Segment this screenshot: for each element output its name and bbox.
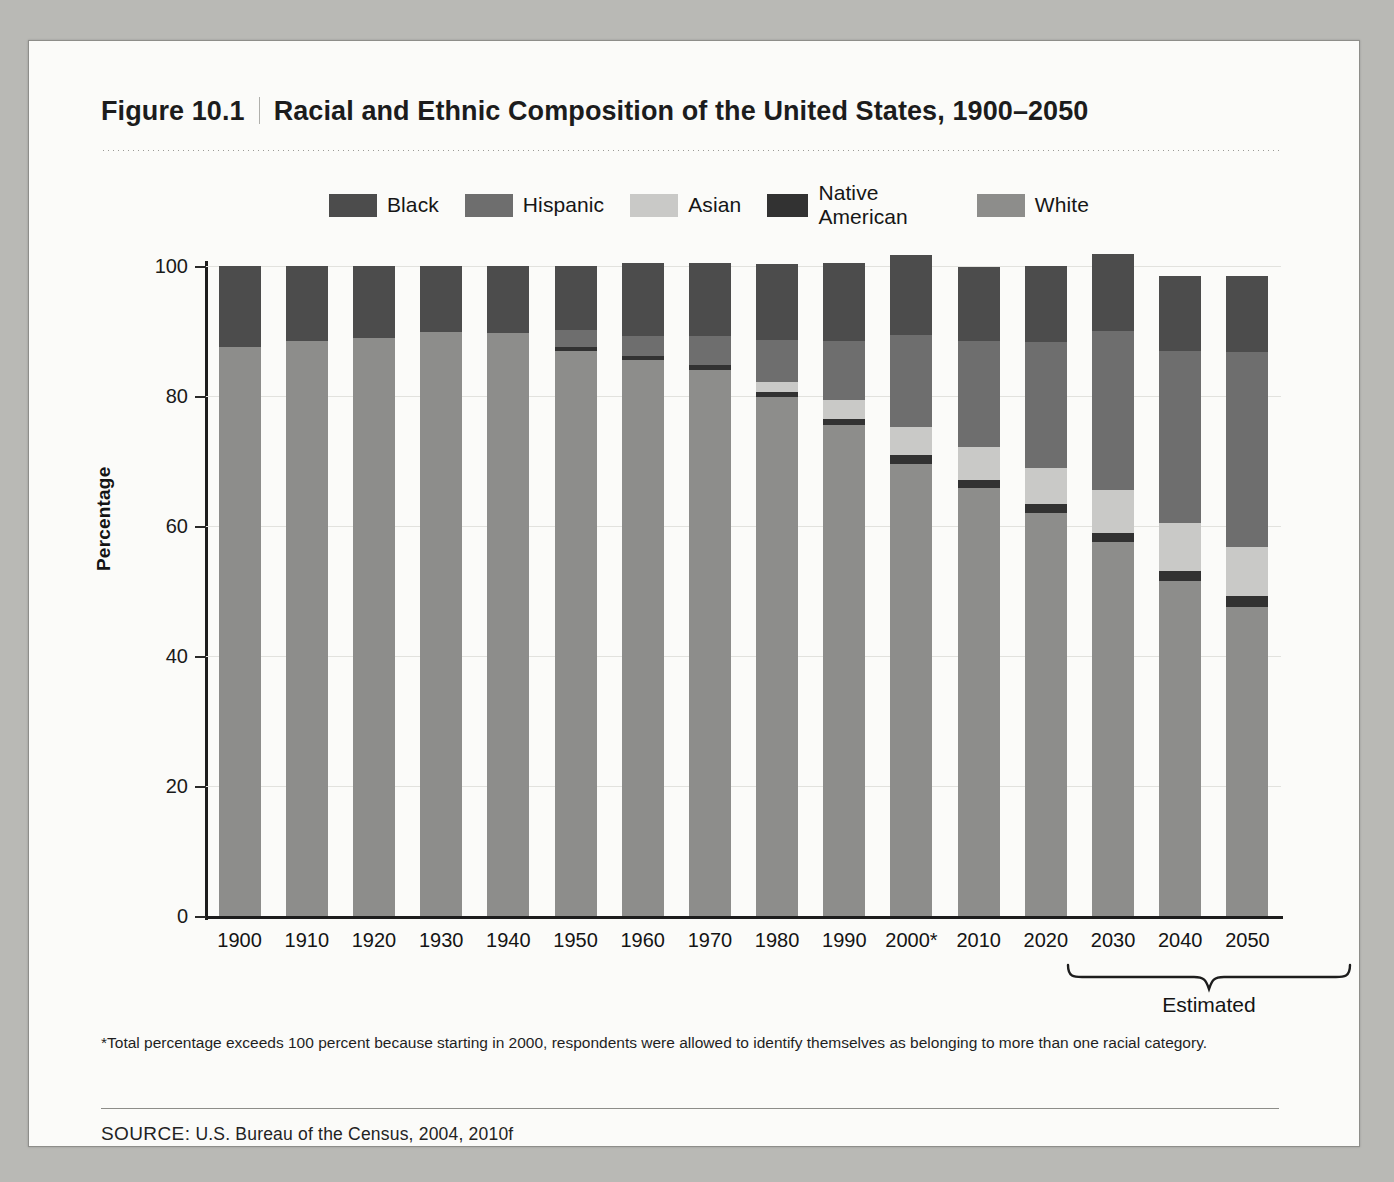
bar-segment-hispanic: [756, 340, 798, 382]
y-axis-tick-label: 0: [177, 905, 188, 928]
y-axis-tick: [195, 916, 206, 918]
bar-segment-black: [890, 255, 932, 335]
figure-page: Figure 10.1 Racial and Ethnic Compositio…: [0, 0, 1394, 1182]
bar-1910: [286, 266, 328, 916]
bar-segment-hispanic: [1025, 342, 1067, 468]
bar-segment-native-american: [890, 455, 932, 465]
bar-segment-hispanic: [555, 330, 597, 346]
legend-item-label: Hispanic: [523, 193, 604, 217]
bar-segment-black: [622, 263, 664, 336]
bar-1950: [555, 266, 597, 916]
bar-segment-native-american: [756, 392, 798, 397]
bar-2040: [1159, 266, 1201, 916]
legend-swatch-icon: [767, 194, 808, 217]
plot-region: 020406080100: [206, 266, 1281, 916]
bar-segment-hispanic: [1159, 351, 1201, 523]
bar-segment-native-american: [689, 365, 731, 370]
bar-segment-native-american: [823, 419, 865, 425]
bar-segment-black: [1025, 266, 1067, 342]
y-axis-tick-label: 100: [155, 255, 188, 278]
bar-segment-native-american: [555, 347, 597, 351]
bar-segment-black: [756, 264, 798, 340]
y-axis-tick-label: 40: [166, 645, 188, 668]
y-axis-tick: [195, 526, 206, 528]
bar-segment-hispanic: [823, 341, 865, 400]
bar-segment-black: [1159, 276, 1201, 351]
y-axis-label: Percentage: [93, 467, 115, 571]
bar-segment-asian: [756, 382, 798, 392]
bar-segment-white: [1025, 513, 1067, 916]
bar-segment-asian: [823, 400, 865, 420]
bar-segment-hispanic: [1226, 352, 1268, 547]
bar-1940: [487, 266, 529, 916]
bar-segment-native-american: [1226, 596, 1268, 608]
bar-segment-white: [353, 338, 395, 917]
y-axis-tick: [195, 396, 206, 398]
bar-2030: [1092, 266, 1134, 916]
bar-segment-white: [555, 351, 597, 917]
bar-segment-asian: [1159, 523, 1201, 570]
bar-segment-white: [958, 488, 1000, 916]
figure-source: SOURCE: U.S. Bureau of the Census, 2004,…: [101, 1123, 1271, 1145]
bar-segment-hispanic: [1092, 331, 1134, 490]
legend-item-black: Black: [329, 193, 439, 217]
bar-segment-black: [823, 263, 865, 342]
y-axis-tick-label: 20: [166, 775, 188, 798]
bar-segment-black: [555, 266, 597, 330]
bar-segment-native-american: [1159, 571, 1201, 581]
legend-item-white: White: [977, 193, 1089, 217]
bar-segment-black: [219, 266, 261, 347]
bar-1920: [353, 266, 395, 916]
bar-series-group: [206, 266, 1281, 916]
bar-segment-native-american: [1092, 533, 1134, 543]
y-axis-tick: [195, 266, 206, 268]
bar-segment-white: [420, 332, 462, 916]
bar-1960: [622, 266, 664, 916]
x-axis-line: [205, 916, 1283, 919]
header-divider: [259, 97, 260, 124]
bar-segment-native-american: [1025, 504, 1067, 513]
bar-segment-white: [622, 360, 664, 916]
bar-segment-asian: [1025, 468, 1067, 504]
legend-swatch-icon: [465, 194, 513, 217]
y-axis-tick-label: 60: [166, 515, 188, 538]
header-dotted-rule: [101, 149, 1279, 152]
bar-segment-white: [1226, 607, 1268, 916]
bar-segment-native-american: [622, 356, 664, 360]
y-axis-tick-label: 80: [166, 385, 188, 408]
bar-segment-white: [219, 347, 261, 916]
x-axis-tick-label: 2050: [1202, 929, 1292, 952]
figure-header: Figure 10.1 Racial and Ethnic Compositio…: [101, 93, 1281, 127]
figure-number: Figure 10.1: [101, 96, 245, 127]
legend-swatch-icon: [977, 194, 1025, 217]
bar-1930: [420, 266, 462, 916]
source-text: U.S. Bureau of the Census, 2004, 2010f: [190, 1124, 513, 1144]
legend-item-label: Black: [387, 193, 439, 217]
bar-2050: [1226, 266, 1268, 916]
bar-segment-white: [756, 397, 798, 916]
bar-segment-hispanic: [890, 335, 932, 427]
legend-item-asian: Asian: [630, 193, 741, 217]
bar-segment-white: [487, 333, 529, 916]
bar-segment-hispanic: [622, 336, 664, 357]
figure-footnote: *Total percentage exceeds 100 percent be…: [101, 1031, 1271, 1055]
bar-segment-white: [823, 425, 865, 916]
y-axis-tick: [195, 656, 206, 658]
estimated-label: Estimated: [1064, 993, 1354, 1017]
bar-1990: [823, 266, 865, 916]
bar-segment-black: [958, 267, 1000, 342]
bar-segment-black: [689, 263, 731, 335]
bar-segment-hispanic: [689, 336, 731, 366]
bar-segment-white: [286, 341, 328, 916]
legend-item-native-american: Native American: [767, 181, 951, 229]
estimated-brace-icon: [1064, 963, 1354, 993]
figure-sheet: Figure 10.1 Racial and Ethnic Compositio…: [28, 40, 1360, 1147]
bar-segment-black: [1226, 276, 1268, 352]
chart-legend: BlackHispanicAsianNative AmericanWhite: [329, 189, 1089, 221]
legend-item-label: Asian: [688, 193, 741, 217]
bar-segment-black: [487, 266, 529, 333]
bar-1970: [689, 266, 731, 916]
bar-segment-black: [286, 266, 328, 341]
bar-segment-hispanic: [958, 341, 1000, 447]
bar-segment-white: [689, 370, 731, 916]
